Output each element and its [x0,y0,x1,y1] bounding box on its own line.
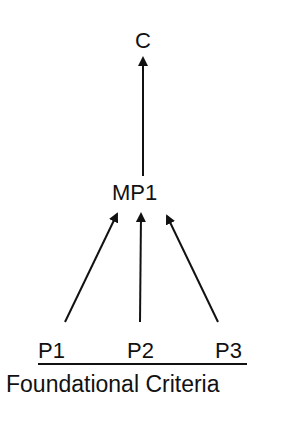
node-conclusion: C [135,30,151,52]
arrow-p1-to-mp1 [65,214,117,322]
arrow-p2-to-mp1 [140,214,141,322]
node-p2: P2 [127,340,154,362]
base-label: Foundational Criteria [6,373,220,396]
node-p3: P3 [215,340,242,362]
node-mp1: MP1 [112,182,157,204]
node-p1: P1 [38,340,65,362]
arrow-p3-to-mp1 [167,216,218,322]
